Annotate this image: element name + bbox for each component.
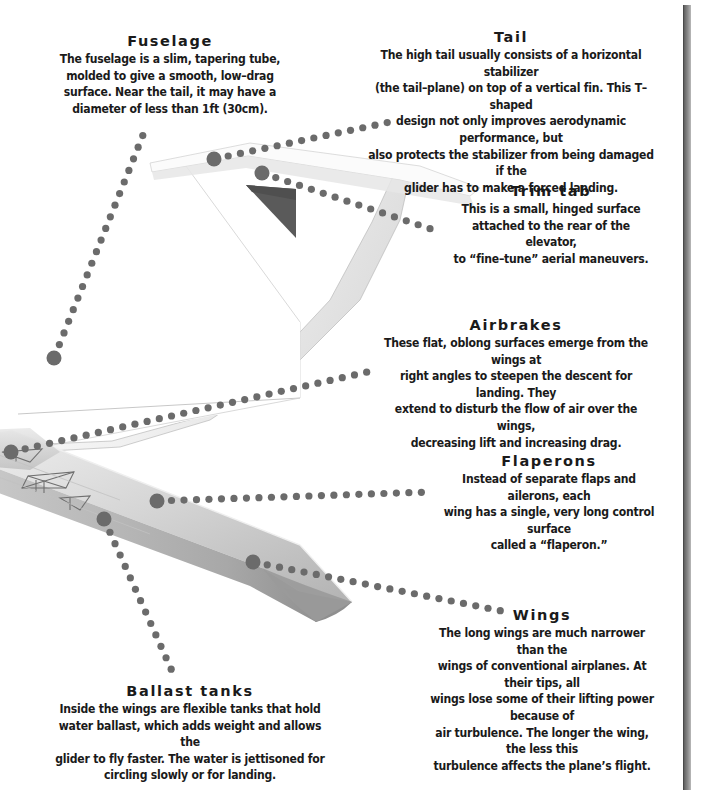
leader-dot: [60, 329, 67, 336]
leader-dot: [144, 418, 151, 425]
leader-dot: [79, 283, 86, 290]
leader-dot: [117, 551, 124, 558]
leader-anchor-dot: [97, 512, 112, 527]
leader-dot: [107, 213, 114, 220]
leader-dot: [310, 134, 317, 141]
leader-dot: [58, 437, 65, 444]
leader-anchor-dot: [47, 351, 62, 366]
leader-dot: [139, 132, 146, 139]
leader-dot: [106, 529, 113, 536]
leader-ballast-tanks: [97, 512, 175, 673]
leader-dot: [249, 147, 256, 154]
leader-dot: [229, 399, 236, 406]
leader-dot: [355, 201, 362, 208]
leader-dot: [391, 213, 398, 220]
leader-dot: [116, 190, 123, 197]
leader-dot: [156, 415, 163, 422]
leader-dot: [362, 581, 369, 588]
fuselage-boom: [0, 172, 410, 455]
leader-dot: [132, 586, 139, 593]
leader-dot: [180, 497, 187, 504]
leader-dot: [83, 432, 90, 439]
leader-dot: [74, 295, 81, 302]
wing-panel-lines: [0, 448, 150, 534]
leader-dot: [379, 209, 386, 216]
leader-dot: [393, 490, 400, 497]
leader-dot: [111, 202, 118, 209]
leader-dot: [237, 150, 244, 157]
leader-dot: [403, 217, 410, 224]
leader-dot: [347, 127, 354, 134]
leader-dot: [274, 142, 281, 149]
leader-airbrakes: [4, 369, 371, 460]
leader-anchor-dot: [255, 166, 270, 181]
leader-dot: [162, 654, 169, 661]
leader-dot: [339, 374, 346, 381]
callout-body-airbrakes: These flat, oblong surfaces emerge from …: [377, 335, 656, 451]
leader-dot: [351, 371, 358, 378]
leader-dot: [192, 407, 199, 414]
callout-title-tail: Tail: [355, 28, 667, 46]
callout-body-fuselage: The fuselage is a slim, tapering tube, m…: [57, 51, 284, 117]
leader-dot: [423, 593, 430, 600]
leader-flaperons: [150, 489, 425, 509]
leader-dot: [405, 489, 412, 496]
leader-anchor-dot: [4, 445, 19, 460]
leader-dot: [22, 445, 29, 452]
leader-dot: [335, 129, 342, 136]
callout-body-trim-tab: This is a small, hinged surface attached…: [445, 201, 657, 267]
callout-body-tail: The high tail usually consists of a hori…: [366, 47, 656, 196]
leader-dot: [418, 489, 425, 496]
leader-dot: [264, 561, 271, 568]
leader-dot: [243, 494, 250, 501]
leader-dot: [314, 380, 321, 387]
leader-dot: [241, 396, 248, 403]
leader-dot: [343, 491, 350, 498]
leader-dot: [255, 494, 262, 501]
leader-dot: [84, 271, 91, 278]
leader-dot: [218, 495, 225, 502]
leader-dot: [70, 434, 77, 441]
leader-dot: [168, 497, 175, 504]
leader-dot: [70, 306, 77, 313]
leader-dot: [125, 167, 132, 174]
leader-dot: [230, 495, 237, 502]
leader-dot: [102, 225, 109, 232]
leader-dot: [265, 390, 272, 397]
callout-title-wings: Wings: [418, 606, 666, 624]
callout-body-wings: The long wings are much narrower than th…: [427, 625, 658, 774]
leader-dot: [380, 490, 387, 497]
callout-title-flaperons: Flaperons: [432, 452, 666, 470]
leader-dot: [320, 190, 327, 197]
leader-dot: [56, 341, 63, 348]
leader-dot: [130, 155, 137, 162]
leader-dot: [46, 440, 53, 447]
leader-dot: [253, 393, 260, 400]
callout-title-ballast-tanks: Ballast tanks: [42, 682, 338, 700]
leader-dot: [300, 568, 307, 575]
callout-title-fuselage: Fuselage: [48, 32, 292, 50]
leader-dot: [205, 496, 212, 503]
leader-dot: [272, 174, 279, 181]
leader-dot: [95, 429, 102, 436]
leader-dot: [121, 178, 128, 185]
leader-dot: [355, 491, 362, 498]
leader-dot: [343, 198, 350, 205]
callout-title-trim-tab: Trim tab: [437, 182, 665, 200]
leader-dot: [318, 492, 325, 499]
callout-ballast-tanks: Ballast tanks Inside the wings are flexi…: [42, 682, 338, 784]
leader-dot: [122, 563, 129, 570]
leader-dot: [426, 225, 433, 232]
leader-dot: [284, 178, 291, 185]
leader-dot: [88, 260, 95, 267]
callout-trim-tab: Trim tab This is a small, hinged surface…: [437, 182, 665, 267]
leader-dot: [326, 377, 333, 384]
leader-dot: [386, 585, 393, 592]
main-wing: [0, 428, 352, 622]
leader-anchor-dot: [207, 152, 222, 167]
leader-dot: [276, 564, 283, 571]
leader-dot: [280, 493, 287, 500]
leader-dot: [374, 583, 381, 590]
leader-dot: [435, 595, 442, 602]
leader-dot: [411, 590, 418, 597]
